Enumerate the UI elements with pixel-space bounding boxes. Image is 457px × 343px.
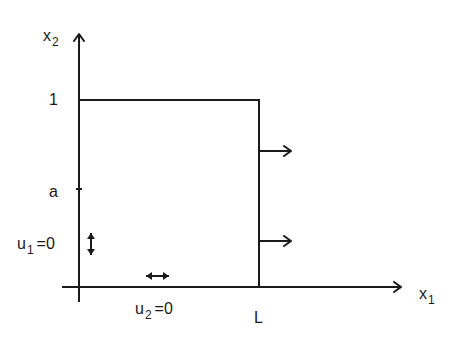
bottom-boundary-condition: u2=0 xyxy=(135,301,173,321)
bc-bottom-rest: =0 xyxy=(155,300,173,317)
bc-left-base: u xyxy=(17,235,26,252)
x2-axis-label: x2 xyxy=(43,28,59,48)
x2-label-base: x xyxy=(43,27,51,44)
tick-label-1: 1 xyxy=(49,92,58,108)
tick-label-L: L xyxy=(254,310,263,326)
bc-bottom-base: u xyxy=(135,300,144,317)
left-boundary-condition: u1=0 xyxy=(17,236,55,256)
bc-left-rest: =0 xyxy=(37,235,55,252)
domain-diagram xyxy=(0,0,457,343)
x2-label-sub: 2 xyxy=(52,35,59,49)
tick-label-a: a xyxy=(49,184,58,200)
x1-label-base: x xyxy=(419,285,427,302)
x1-label-sub: 1 xyxy=(428,293,435,307)
x1-axis-label: x1 xyxy=(419,286,435,306)
bc-left-sub: 1 xyxy=(27,243,34,257)
bc-bottom-sub: 2 xyxy=(145,308,152,322)
